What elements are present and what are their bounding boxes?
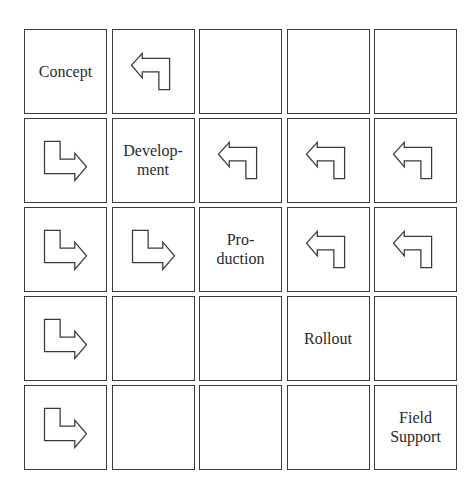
cell-r4-c2 [199,385,282,470]
arrow-back-left-icon [113,30,194,113]
cell-r1-c0 [24,118,107,203]
cell-r3-c3: Rollout [287,296,370,381]
cell-r1-c1: Develop- ment [112,118,195,203]
arrow-forward-right-icon [25,119,106,202]
cell-r1-c2 [199,118,282,203]
phase-label-production: Pro- duction [217,230,265,268]
cell-r0-c0: Concept [24,29,107,114]
cell-r3-c1 [112,296,195,381]
arrow-forward-right-icon [113,208,194,291]
phase-matrix-grid: Concept Develop- ment Pro- duction Rollo… [24,29,457,470]
arrow-back-left-icon [288,208,369,291]
cell-r2-c4 [374,207,457,292]
arrow-back-left-icon [375,208,456,291]
cell-r3-c0 [24,296,107,381]
cell-r2-c2: Pro- duction [199,207,282,292]
cell-r2-c3 [287,207,370,292]
cell-r4-c1 [112,385,195,470]
cell-r0-c4 [374,29,457,114]
phase-label-development: Develop- ment [123,141,183,179]
cell-r1-c4 [374,118,457,203]
cell-r4-c0 [24,385,107,470]
cell-r0-c2 [199,29,282,114]
cell-r4-c3 [287,385,370,470]
arrow-forward-right-icon [25,386,106,469]
arrow-forward-right-icon [25,297,106,380]
arrow-back-left-icon [375,119,456,202]
arrow-back-left-icon [288,119,369,202]
arrow-back-left-icon [200,119,281,202]
arrow-forward-right-icon [25,208,106,291]
cell-r0-c1 [112,29,195,114]
cell-r1-c3 [287,118,370,203]
phase-label-concept: Concept [39,62,92,81]
phase-label-rollout: Rollout [304,329,352,348]
cell-r3-c2 [199,296,282,381]
phase-label-field-support: Field Support [390,408,441,446]
cell-r0-c3 [287,29,370,114]
cell-r3-c4 [374,296,457,381]
cell-r2-c1 [112,207,195,292]
cell-r2-c0 [24,207,107,292]
cell-r4-c4: Field Support [374,385,457,470]
